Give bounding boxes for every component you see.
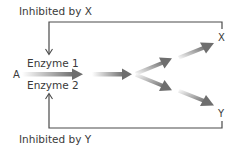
arrow-shaft (22, 72, 74, 77)
arrow-shaft (178, 89, 205, 103)
arrow-shaft (92, 72, 124, 77)
label-product-x: X (218, 32, 225, 43)
branch-x-arrow-1 (135, 58, 172, 76)
arrow-shaft (178, 46, 205, 60)
label-inhibited-by-x: Inhibited by X (19, 5, 92, 17)
branch-y-arrow-2 (178, 89, 214, 106)
branch-y-arrow-1 (135, 73, 172, 91)
branch-x-arrow-2 (178, 43, 214, 60)
label-substrate-a: A (13, 69, 20, 80)
label-enzyme-1: Enzyme 1 (27, 57, 79, 69)
arrow-head (122, 69, 132, 81)
arrow-shaft (135, 73, 164, 88)
arrow-shaft (135, 61, 164, 76)
label-enzyme-2: Enzyme 2 (27, 79, 79, 91)
arrow-step-2 (92, 69, 132, 81)
label-product-y: Y (217, 108, 225, 119)
pathway-diagram: Inhibited by X Enzyme 1 A Enzyme 2 X Y I… (0, 0, 236, 150)
label-inhibited-by-y: Inhibited by Y (19, 133, 92, 145)
